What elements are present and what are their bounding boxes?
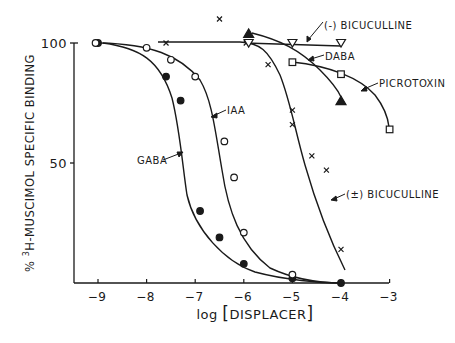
data-point-iaa (221, 138, 228, 145)
y-tick-label-50: 50 (49, 156, 67, 171)
label-picrotoxin: PICROTOXIN (379, 78, 445, 89)
data-point-bicuculline (309, 153, 314, 158)
data-point-bicuculline (164, 41, 169, 46)
data-point-iaa (289, 271, 296, 278)
y-tick-label-100: 100 (41, 36, 67, 51)
label-gaba: GABA (137, 155, 167, 166)
data-point-picrotoxin (336, 96, 346, 105)
picrotoxin-curve (252, 33, 341, 97)
data-point-bicuculline (324, 168, 329, 173)
x-tick-label: −6 (233, 290, 252, 304)
label-iaa: IAA (227, 105, 245, 116)
data-point-bicuculline (266, 62, 271, 67)
data-point-daba (386, 126, 393, 133)
x-tick-label: −3 (379, 290, 398, 304)
x-axis-label: log [DISPLACER] (196, 303, 313, 323)
data-point-gaba (216, 234, 223, 241)
label-daba: DABA (325, 51, 355, 62)
data-point-gaba (241, 261, 248, 268)
data-point-iaa (92, 40, 99, 47)
bicuculline-racemic-curve (158, 42, 345, 270)
data-point-gaba (338, 280, 345, 287)
label-bicuculline-racemic: (±) BICUCULLINE (346, 189, 439, 200)
data-point-bicuculline (339, 247, 344, 252)
x-tick-label: −4 (331, 290, 350, 304)
data-point-bicuculline (288, 40, 297, 48)
y-tick-labels: 100 50 (41, 36, 67, 171)
label-bicuculline-minus: (-) BICUCULLINE (324, 20, 412, 31)
binding-displacement-chart: −9−8−7−6−5−4−3 100 50 GABA IAA (-) BICUC… (0, 0, 455, 343)
x-tick-label: −8 (136, 290, 155, 304)
data-point-daba (338, 71, 345, 78)
data-point-iaa (143, 45, 150, 52)
x-tick-label: −7 (185, 290, 204, 304)
data-point-iaa (241, 229, 248, 236)
data-point-bicuculline (217, 17, 222, 22)
data-point-gaba (163, 73, 170, 80)
data-point-iaa (231, 174, 238, 181)
data-point-iaa (192, 73, 199, 80)
x-tick-label: −9 (88, 290, 107, 304)
axes (70, 43, 389, 283)
data-point-gaba (177, 97, 184, 104)
x-tick-label: −5 (282, 290, 301, 304)
data-point-daba (289, 59, 296, 66)
data-point-iaa (168, 57, 175, 64)
data-point-gaba (197, 208, 204, 215)
y-axis-label: % 3H-MUSCIMOL SPECIFIC BINDING (22, 54, 37, 272)
